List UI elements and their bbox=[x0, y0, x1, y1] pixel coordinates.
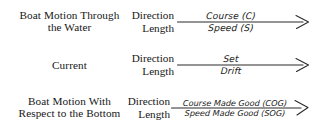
row-label-current: Current bbox=[2, 58, 137, 71]
annotation-below-arrow: Speed (S) bbox=[177, 23, 312, 33]
arrow-icon bbox=[177, 2, 311, 42]
annotation-above-arrow: Set bbox=[177, 54, 312, 64]
length-label: Length bbox=[118, 22, 174, 35]
vector-arrow-group: Course Made Good (COG) Speed Made Good (… bbox=[171, 88, 313, 128]
direction-length-column: Direction Length bbox=[118, 51, 174, 78]
row-label-line: the Water bbox=[2, 22, 137, 35]
row-label-line: Boat Motion Through bbox=[2, 9, 137, 22]
arrow-icon bbox=[177, 45, 311, 85]
diagram-row-boat-motion-respect-to-bottom: Boat Motion With Respect to the Bottom D… bbox=[0, 86, 314, 129]
length-label: Length bbox=[118, 65, 174, 78]
direction-length-column: Direction Length bbox=[116, 94, 170, 121]
direction-label: Direction bbox=[118, 8, 174, 21]
vector-arrow-group: Set Drift bbox=[177, 45, 311, 85]
direction-label: Direction bbox=[116, 94, 170, 107]
annotation-above-arrow: Course Made Good (COG) bbox=[171, 98, 314, 108]
diagram-row-current: Current Direction Length Set Drift bbox=[0, 43, 314, 86]
direction-label: Direction bbox=[118, 51, 174, 64]
length-label: Length bbox=[116, 108, 170, 121]
vector-arrow-group: Course (C) Speed (S) bbox=[177, 2, 311, 42]
annotation-below-arrow: Drift bbox=[177, 66, 312, 76]
row-label-boat-motion-through-water: Boat Motion Through the Water bbox=[2, 9, 137, 34]
row-label-line: Current bbox=[2, 58, 137, 71]
annotation-below-arrow: Speed Made Good (SOG) bbox=[171, 108, 314, 118]
diagram-canvas: Boat Motion Through the Water Direction … bbox=[0, 0, 314, 129]
annotation-above-arrow: Course (C) bbox=[177, 11, 312, 21]
direction-length-column: Direction Length bbox=[118, 8, 174, 35]
diagram-row-boat-motion-through-water: Boat Motion Through the Water Direction … bbox=[0, 0, 314, 43]
